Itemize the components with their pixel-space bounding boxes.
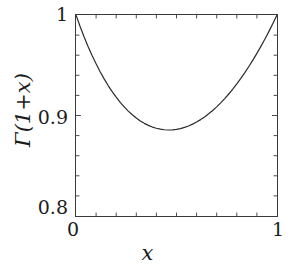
figure-gamma-function-plot: 1 0.9 0.8 0 1 Γ(1+x) x (0, 0, 295, 271)
y-axis-title: Γ(1+x) (11, 35, 35, 185)
plot-axes-frame (75, 14, 278, 217)
y-tick-label-0-8: 0.8 (38, 198, 68, 217)
x-tick-label-1: 1 (272, 220, 284, 239)
y-tick-label-1: 1 (56, 5, 68, 24)
y-tick-label-0-9: 0.9 (38, 108, 68, 127)
x-tick-label-0: 0 (67, 220, 79, 239)
x-axis-title: x (0, 241, 295, 265)
data-curve-gamma (76, 15, 277, 216)
series-line-gamma (76, 15, 277, 130)
